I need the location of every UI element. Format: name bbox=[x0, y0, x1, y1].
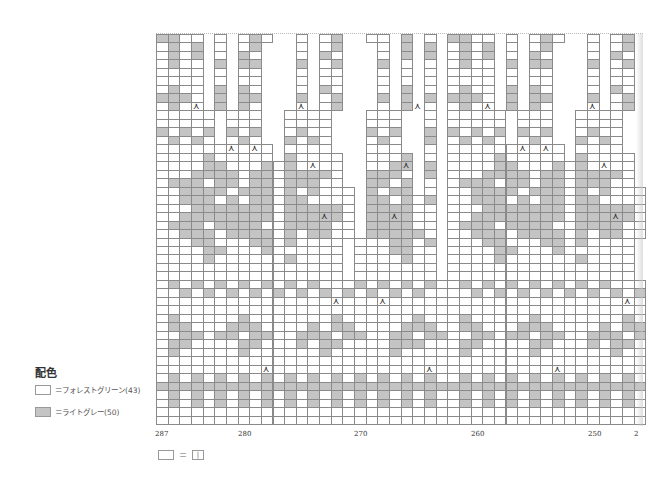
chart-top-dotted-line bbox=[156, 33, 643, 34]
decrease-symbol-icon: ⋏ bbox=[228, 144, 235, 152]
decrease-symbol-icon: ⋏ bbox=[554, 365, 561, 373]
decrease-symbol-icon: ⋏ bbox=[391, 212, 398, 220]
blank-cell-icon bbox=[158, 450, 174, 460]
decrease-symbol-icon: ⋏ bbox=[333, 297, 340, 305]
decrease-symbol-icon: ⋏ bbox=[426, 365, 433, 373]
key-equals: ＝ bbox=[179, 449, 187, 460]
decrease-symbol-icon: ⋏ bbox=[612, 212, 619, 220]
decrease-symbol-icon: ⋏ bbox=[321, 212, 328, 220]
axis-label-260: 260 bbox=[471, 430, 484, 438]
legend-label: ＝ライトグレー(50) bbox=[55, 406, 119, 417]
decrease-symbol-icon: ⋏ bbox=[251, 144, 258, 152]
decrease-symbol-icon: ⋏ bbox=[379, 297, 386, 305]
decrease-symbol-icon: ⋏ bbox=[309, 161, 316, 169]
axis-label-280: 280 bbox=[238, 430, 251, 438]
knit-stitch-symbol: | bbox=[192, 450, 204, 460]
axis-label-cut: 2 bbox=[634, 430, 638, 438]
knitting-chart: ⋏⋏⋏⋏⋏⋏⋏⋏⋏⋏⋏⋏⋏⋏⋏⋏⋏⋏⋏⋏⋏ bbox=[0, 0, 643, 440]
white-stitch-cell bbox=[552, 34, 565, 43]
grey-swatch-icon bbox=[35, 407, 51, 417]
legend-item-light-grey: ＝ライトグレー(50) bbox=[35, 406, 119, 417]
decrease-symbol-icon: ⋏ bbox=[484, 102, 491, 110]
decrease-symbol-icon: ⋏ bbox=[403, 161, 410, 169]
axis-label-287: 287 bbox=[155, 430, 168, 438]
legend-item-forest-green: ＝フォレストグリーン(43) bbox=[35, 384, 140, 395]
symbol-key: ＝ | bbox=[158, 449, 204, 460]
grey-stitch-cell bbox=[401, 102, 414, 111]
grey-stitch-cell bbox=[622, 102, 635, 111]
page-fold-shadow bbox=[636, 34, 643, 426]
decrease-symbol-icon: ⋏ bbox=[542, 144, 549, 152]
decrease-symbol-icon: ⋏ bbox=[414, 102, 421, 110]
decrease-symbol-icon: ⋏ bbox=[589, 102, 596, 110]
decrease-symbol-icon: ⋏ bbox=[263, 365, 270, 373]
decrease-symbol-icon: ⋏ bbox=[298, 102, 305, 110]
axis-label-270: 270 bbox=[354, 430, 367, 438]
decrease-symbol-icon: ⋏ bbox=[624, 297, 631, 305]
decrease-symbol-icon: ⋏ bbox=[193, 102, 200, 110]
decrease-symbol-icon: ⋏ bbox=[519, 144, 526, 152]
grey-stitch-cell bbox=[331, 102, 344, 111]
legend-label: ＝フォレストグリーン(43) bbox=[55, 384, 140, 395]
axis-label-250: 250 bbox=[588, 430, 601, 438]
decrease-symbol-icon: ⋏ bbox=[601, 161, 608, 169]
legend-title: 配色 bbox=[35, 364, 57, 380]
white-stitch-cell bbox=[261, 34, 274, 43]
white-swatch-icon bbox=[35, 385, 51, 395]
